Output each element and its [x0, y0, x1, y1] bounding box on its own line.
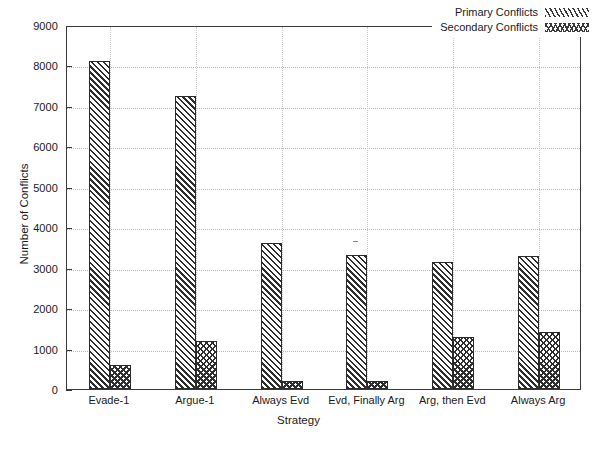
plot-area [66, 26, 581, 390]
gridline-horizontal [67, 229, 580, 230]
gridline-horizontal [67, 270, 580, 271]
y-tick-label: 0 [52, 384, 58, 396]
bar-primary-conflicts [175, 96, 196, 389]
bar-primary-conflicts [261, 243, 282, 389]
x-tick-label: Evade-1 [88, 394, 129, 406]
bar-secondary-conflicts [196, 341, 217, 389]
y-axis-ticks: 0100020003000400050006000700080009000 [0, 0, 58, 450]
legend-item-primary: Primary Conflicts [440, 5, 589, 19]
zigzag-hatch-swatch [545, 23, 589, 32]
x-tick-mark [538, 384, 539, 390]
bar-primary-conflicts [432, 262, 453, 389]
bar-secondary-conflicts [453, 337, 474, 389]
bar-secondary-conflicts [367, 381, 388, 389]
gridline-horizontal [67, 148, 580, 149]
y-tick-mark [66, 228, 72, 229]
y-tick-mark [66, 26, 72, 27]
diagonal-hatch-swatch [545, 8, 589, 17]
x-tick-mark [195, 384, 196, 390]
chart-legend: Primary Conflicts Secondary Conflicts [432, 3, 595, 37]
bar-primary-conflicts [346, 255, 367, 389]
legend-label-secondary: Secondary Conflicts [440, 21, 538, 33]
x-tick-label: Argue-1 [175, 394, 214, 406]
gridline-vertical [196, 27, 197, 389]
gridline-horizontal [67, 310, 580, 311]
y-tick-mark [66, 390, 72, 391]
x-tick-mark [109, 384, 110, 390]
y-tick-label: 6000 [33, 141, 58, 153]
y-tick-mark [66, 350, 72, 351]
y-tick-label: 3000 [33, 263, 58, 275]
y-tick-mark [66, 147, 72, 148]
x-axis-title: Strategy [0, 414, 597, 426]
bar-secondary-conflicts [282, 381, 303, 389]
y-tick-mark [66, 188, 72, 189]
y-tick-mark [66, 107, 72, 108]
bar-secondary-conflicts [539, 332, 560, 389]
y-tick-label: 2000 [33, 303, 58, 315]
gridline-vertical [110, 27, 111, 389]
x-tick-label: Always Arg [511, 394, 565, 406]
x-tick-label: Always Evd [252, 394, 309, 406]
y-tick-mark [66, 309, 72, 310]
x-tick-mark [281, 384, 282, 390]
y-tick-label: 9000 [33, 20, 58, 32]
bar-primary-conflicts [89, 61, 110, 389]
y-tick-mark [66, 66, 72, 67]
bar-secondary-conflicts [110, 365, 131, 389]
gridline-vertical [367, 27, 368, 389]
bar-primary-conflicts [518, 256, 539, 389]
gridline-horizontal [67, 108, 580, 109]
gridline-horizontal [67, 67, 580, 68]
legend-item-secondary: Secondary Conflicts [440, 20, 589, 34]
gridline-horizontal [67, 351, 580, 352]
x-tick-mark [366, 384, 367, 390]
y-tick-label: 1000 [33, 344, 58, 356]
x-tick-mark [452, 384, 453, 390]
bar-chart: Number of Conflicts 01000200030004000500… [0, 0, 597, 450]
stray-mark [353, 241, 358, 242]
y-tick-label: 8000 [33, 60, 58, 72]
y-tick-label: 4000 [33, 222, 58, 234]
gridline-vertical [453, 27, 454, 389]
gridline-vertical [282, 27, 283, 389]
x-tick-label: Arg, then Evd [419, 394, 486, 406]
y-tick-label: 7000 [33, 101, 58, 113]
y-tick-label: 5000 [33, 182, 58, 194]
y-tick-mark [66, 269, 72, 270]
gridline-horizontal [67, 189, 580, 190]
x-tick-label: Evd, Finally Arg [328, 394, 404, 406]
legend-label-primary: Primary Conflicts [455, 6, 538, 18]
